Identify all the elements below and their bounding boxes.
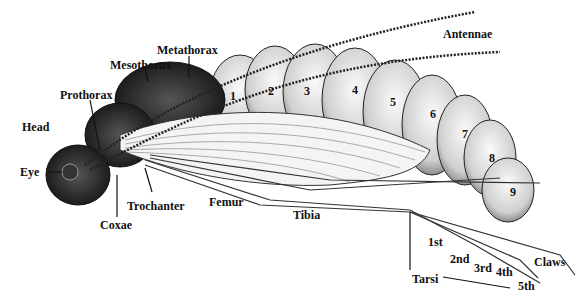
segment-9: 9 [510,186,516,198]
label-coxae: Coxae [100,219,132,231]
segment-7: 7 [462,128,468,140]
segment-6: 6 [430,108,436,120]
label-head: Head [22,121,49,133]
label-tarsus-5th: 5th [518,280,535,292]
segment-2: 2 [268,85,274,97]
segment-8: 8 [489,152,495,164]
label-prothorax: Prothorax [60,89,112,101]
label-claws: Claws [534,256,565,268]
label-tarsus-4th: 4th [496,266,513,278]
label-eye: Eye [20,166,39,178]
label-antennae: Antennae [443,28,492,40]
label-tibia: Tibia [293,209,320,221]
label-femur: Femur [209,196,244,208]
segment-4: 4 [352,84,358,96]
label-tarsus-3rd: 3rd [474,262,492,274]
label-trochanter: Trochanter [127,200,185,212]
label-metathorax: Metathorax [157,44,218,56]
label-mesothorax: Mesothorax [110,59,171,71]
label-tarsus-2nd: 2nd [450,253,469,265]
insect-anatomy-diagram: Head Eye Prothorax Mesothorax Metathorax… [0,0,578,303]
label-tarsus-1st: 1st [428,236,443,248]
segment-3: 3 [304,85,310,97]
segment-5: 5 [390,96,396,108]
label-tarsi: Tarsi [412,273,438,285]
segment-1: 1 [230,90,236,102]
